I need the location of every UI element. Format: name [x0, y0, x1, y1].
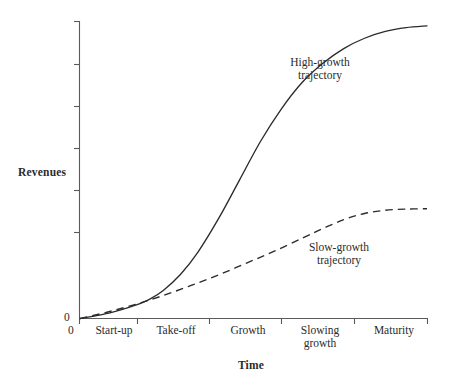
slow-growth-trajectory-label: Slow-growthtrajectory — [287, 241, 391, 267]
high-growth-trajectory-label: High-growthtrajectory — [268, 56, 372, 82]
y-axis-title: Revenues — [18, 166, 66, 179]
x-tick-label-takeoff: Take-off — [143, 324, 209, 337]
slow-growth-label-line2: trajectory — [317, 254, 361, 266]
x-tick-label-growth: Growth — [215, 324, 281, 337]
x-tick-label-maturity: Maturity — [359, 324, 429, 337]
x-tick-label-startup: Start-up — [83, 324, 145, 337]
revenue-lifecycle-chart: Revenues 0 0 Start-up Take-off Growth Sl… — [0, 0, 451, 385]
x-tick-label-slowing-growth: Slowinggrowth — [287, 324, 353, 350]
x-axis-zero-label: 0 — [68, 324, 74, 337]
slow-growth-label-line1: Slow-growth — [309, 241, 369, 253]
high-growth-label-line1: High-growth — [290, 56, 349, 68]
y-axis-ticks — [74, 22, 80, 233]
x-tick-label-slowing-line1: Slowing — [301, 324, 339, 336]
high-growth-trajectory-curve — [80, 26, 427, 319]
high-growth-label-line2: trajectory — [298, 69, 342, 81]
x-axis-title: Time — [228, 359, 274, 372]
y-axis-zero-label: 0 — [64, 311, 70, 324]
x-tick-label-slowing-line2: growth — [304, 337, 337, 349]
